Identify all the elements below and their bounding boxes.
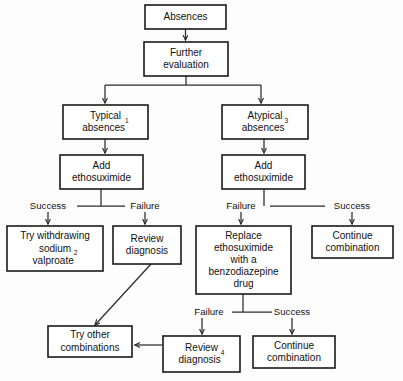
node-label-review-diagnosis-upper: Reviewdiagnosis <box>126 233 168 256</box>
edge-label-right-success: Success <box>334 200 370 211</box>
node-try-withdrawing-sodium-valproate: Try withdrawingsodiumvalproate2 <box>7 226 103 271</box>
edge-label-lower-failure: Failure <box>194 306 223 317</box>
node-replace-ethosuximide: Replaceethosuximidewith abenzodiazepined… <box>196 226 291 294</box>
node-absences: Absences <box>145 5 226 29</box>
edge-review-diagnosis-to-try-other-combinations <box>95 264 151 325</box>
node-continue-combination-upper: Continuecombination <box>312 226 393 258</box>
edge-label-left-success: Success <box>30 200 66 211</box>
flowchart-diagram: AbsencesFurtherevaluationTypicalabsences… <box>0 0 403 381</box>
node-add-ethosuximide-left: Addethosuximide <box>60 155 143 189</box>
flowchart-canvas: AbsencesFurtherevaluationTypicalabsences… <box>0 0 403 381</box>
node-further-evaluation: Furtherevaluation <box>144 42 228 76</box>
node-label-further-evaluation: Furtherevaluation <box>163 47 209 70</box>
node-layer: AbsencesFurtherevaluationTypicalabsences… <box>7 5 393 372</box>
node-review-diagnosis-lower: Reviewdiagnosis4 <box>163 336 240 372</box>
edge-label-right-failure: Failure <box>226 200 255 211</box>
node-label-continue-combination-lower: Continuecombination <box>267 340 321 363</box>
node-label-continue-combination-upper: Continuecombination <box>326 230 380 253</box>
node-atypical-absences: Atypicalabsences3 <box>222 105 308 139</box>
node-try-other-combinations: Try othercombinations <box>48 326 132 357</box>
node-add-ethosuximide-right: Addethosuximide <box>222 155 305 189</box>
node-continue-combination-lower: Continuecombination <box>253 336 335 368</box>
node-label-absences: Absences <box>164 11 208 22</box>
edge-label-left-failure: Failure <box>130 200 159 211</box>
node-label-review-diagnosis-lower: Reviewdiagnosis4 <box>179 342 225 365</box>
edge-label-lower-success: Success <box>274 306 310 317</box>
node-label-atypical-absences: Atypicalabsences3 <box>242 110 289 133</box>
node-review-diagnosis-upper: Reviewdiagnosis <box>113 226 181 264</box>
node-typical-absences: Typicalabsences1 <box>63 105 148 139</box>
